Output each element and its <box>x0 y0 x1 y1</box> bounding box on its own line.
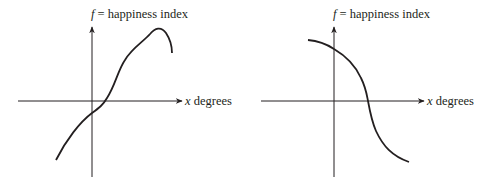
right-x-label: x degrees <box>426 94 474 108</box>
left-y-label: f = happiness index <box>91 7 189 21</box>
left-curve <box>56 29 172 160</box>
left-chart: f = happiness index x degrees <box>18 7 232 177</box>
left-x-label: x degrees <box>184 94 232 108</box>
right-chart: f = happiness index x degrees <box>261 7 474 177</box>
figure-canvas: f = happiness index x degrees f = happin… <box>0 0 482 187</box>
right-y-label: f = happiness index <box>333 7 431 21</box>
